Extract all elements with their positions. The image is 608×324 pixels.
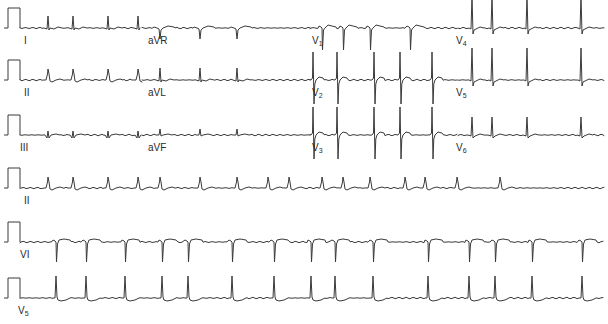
lead-trace-v1 bbox=[310, 25, 457, 50]
lead-label-v6: V6 bbox=[456, 143, 467, 154]
lead-trace-v4 bbox=[458, 0, 604, 34]
lead-trace-avl bbox=[142, 68, 310, 82]
lead-label-avr: aVR bbox=[148, 36, 167, 46]
lead-trace-i bbox=[20, 16, 140, 30]
lead-label-v2: V2 bbox=[312, 88, 323, 99]
lead-label-ii: II bbox=[24, 196, 30, 206]
calibration-pulse bbox=[4, 115, 20, 135]
lead-trace-v6 bbox=[458, 117, 604, 138]
lead-label-v1: V1 bbox=[312, 36, 323, 47]
lead-trace-v5 bbox=[458, 48, 604, 86]
lead-label-v5: V5 bbox=[456, 88, 467, 99]
lead-label-avf: aVF bbox=[148, 143, 166, 153]
lead-trace-v2 bbox=[310, 52, 457, 104]
calibration-pulse bbox=[4, 222, 20, 242]
lead-label-avl: aVL bbox=[148, 88, 166, 98]
lead-trace-avf bbox=[142, 129, 310, 136]
lead-label-i: I bbox=[24, 36, 27, 46]
lead-label-v1: VI bbox=[20, 250, 29, 260]
calibration-pulse bbox=[4, 168, 20, 188]
lead-label-iii: III bbox=[20, 143, 28, 153]
lead-label-v5: V5 bbox=[18, 306, 29, 317]
lead-trace-v3 bbox=[310, 107, 457, 159]
lead-trace-iii bbox=[20, 131, 141, 138]
lead-label-v4: V4 bbox=[456, 36, 467, 47]
lead-trace-v1 bbox=[20, 239, 603, 262]
calibration-pulse bbox=[4, 278, 20, 298]
lead-trace-v5 bbox=[20, 276, 603, 301]
lead-trace-ii bbox=[20, 69, 142, 82]
calibration-pulse bbox=[4, 8, 20, 28]
lead-trace-ii bbox=[20, 177, 604, 190]
calibration-pulse bbox=[4, 60, 20, 80]
lead-label-ii: II bbox=[24, 88, 30, 98]
lead-label-v3: V3 bbox=[312, 143, 323, 154]
ecg-tracing bbox=[0, 0, 608, 324]
